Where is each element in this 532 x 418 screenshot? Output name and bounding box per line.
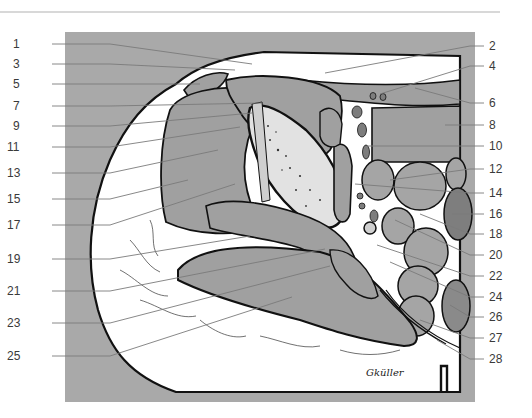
- label-number-2: 2: [489, 40, 519, 52]
- label-number-18: 18: [489, 228, 519, 240]
- label-number-19: 19: [7, 253, 20, 265]
- label-number-28: 28: [489, 353, 519, 365]
- label-number-22: 22: [489, 270, 519, 282]
- label-number-13: 13: [7, 167, 20, 179]
- label-number-24: 24: [489, 291, 519, 303]
- label-number-25: 25: [7, 350, 20, 362]
- label-number-26: 26: [489, 311, 519, 323]
- label-number-16: 16: [489, 208, 519, 220]
- artist-signature: Gküller: [366, 367, 405, 378]
- label-number-12: 12: [489, 163, 519, 175]
- label-number-1: 1: [13, 38, 20, 50]
- label-number-6: 6: [489, 97, 519, 109]
- label-number-17: 17: [7, 219, 20, 231]
- label-number-3: 3: [13, 58, 20, 70]
- label-number-8: 8: [489, 119, 519, 131]
- label-number-14: 14: [489, 187, 519, 199]
- cross-section-figure: Gküller: [0, 0, 532, 418]
- label-number-7: 7: [13, 100, 20, 112]
- small-intermediate-muscle: [320, 108, 342, 146]
- label-number-9: 9: [13, 120, 20, 132]
- label-number-23: 23: [7, 317, 20, 329]
- label-number-21: 21: [7, 285, 20, 297]
- upper-right-muscle: [372, 106, 460, 162]
- label-number-11: 11: [7, 141, 19, 153]
- label-number-5: 5: [13, 78, 20, 90]
- label-number-10: 10: [489, 140, 519, 152]
- posterior-deep-muscle: [334, 144, 352, 222]
- label-number-15: 15: [7, 193, 20, 205]
- label-number-4: 4: [489, 60, 519, 72]
- label-number-27: 27: [489, 332, 519, 344]
- label-number-20: 20: [489, 249, 519, 261]
